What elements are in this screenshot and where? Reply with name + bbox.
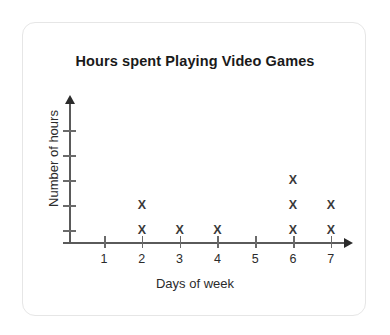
data-point-marker: X	[323, 224, 339, 236]
data-point-marker: X	[323, 199, 339, 211]
data-point-marker: X	[209, 224, 225, 236]
x-axis-tick	[217, 236, 219, 248]
y-axis-tick	[63, 155, 76, 157]
x-axis-tick-label: 6	[282, 252, 304, 266]
data-point-marker: X	[285, 174, 301, 186]
y-axis-title: Number of hours	[46, 89, 61, 229]
x-axis-tick	[142, 236, 144, 248]
x-axis-tick	[331, 236, 333, 248]
x-axis-title: Days of week	[23, 276, 367, 291]
x-axis-tick-label: 5	[244, 252, 266, 266]
data-point-marker: X	[172, 224, 188, 236]
x-axis-tick-label: 4	[206, 252, 228, 266]
data-point-marker: X	[134, 224, 150, 236]
x-axis-tick	[104, 236, 106, 248]
y-axis-tick	[63, 230, 76, 232]
x-axis-tick-label: 2	[131, 252, 153, 266]
data-point-marker: X	[134, 199, 150, 211]
chart-card: Hours spent Playing Video Games 1234567 …	[22, 22, 366, 316]
plot-area: 1234567 XXXXXXXXX Number of hours Days o…	[23, 23, 367, 317]
y-axis-arrow-icon	[65, 95, 75, 104]
y-axis-tick	[63, 130, 76, 132]
x-axis-tick-label: 7	[320, 252, 342, 266]
x-axis-tick	[293, 236, 295, 248]
x-axis-tick-label: 3	[169, 252, 191, 266]
y-axis-tick	[63, 180, 76, 182]
y-axis-tick	[63, 205, 76, 207]
y-axis-line	[69, 103, 71, 242]
x-axis-tick	[180, 236, 182, 248]
x-axis-arrow-icon	[344, 238, 353, 248]
x-axis-tick	[255, 236, 257, 248]
data-point-marker: X	[285, 199, 301, 211]
x-axis-tick-label: 1	[93, 252, 115, 266]
data-point-marker: X	[285, 224, 301, 236]
